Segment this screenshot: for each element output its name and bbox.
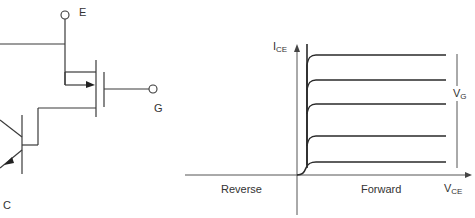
y-axis-arrow-icon — [294, 44, 300, 52]
x-axis-label-sub: CE — [451, 187, 462, 196]
y-axis-label: ICE — [273, 41, 287, 54]
vg-label-sub: G — [460, 92, 466, 101]
curve-vg-3 — [307, 104, 446, 146]
arrow-icon — [86, 81, 95, 88]
emitter-label: E — [79, 7, 86, 18]
curve-vg-2 — [307, 136, 446, 168]
curve-vg-1 — [297, 162, 446, 175]
emitter-terminal-icon — [61, 11, 69, 19]
gate-label: G — [154, 103, 163, 114]
curve-vg-4 — [307, 80, 446, 114]
x-axis-label: VCE — [444, 183, 462, 196]
forward-region-label: Forward — [361, 184, 401, 195]
reverse-region-label: Reverse — [221, 184, 262, 195]
y-axis-label-sub: CE — [276, 45, 287, 54]
collector-label: C — [3, 200, 11, 211]
vg-parameter-label: VG — [453, 88, 467, 101]
igbt-equivalent-circuit — [0, 11, 157, 174]
curve-vg-5 — [307, 55, 446, 90]
x-axis-arrow-icon — [465, 172, 472, 178]
gate-terminal-icon — [149, 85, 157, 93]
